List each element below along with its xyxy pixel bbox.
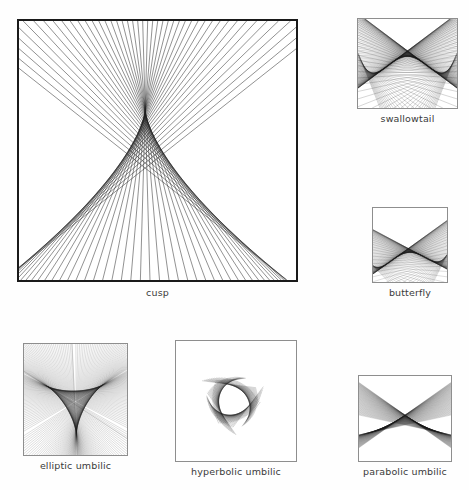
panel-cusp: cusp [17,19,298,282]
cusp-caustic-plot [19,21,296,280]
swallowtail-caustic-plot [358,19,457,108]
panel-elliptic-umbilic-frame [23,343,128,456]
panel-cusp-frame [17,19,298,282]
panel-parabolic-umbilic: parabolic umbilic [358,375,452,462]
parabolic-umbilic-caustic-plot [359,376,451,461]
hyperbolic-umbilic-caustic-plot [176,341,296,461]
panel-hyperbolic-umbilic-caption: hyperbolic umbilic [191,466,281,477]
catastrophe-figure: cusp swallowtail butterfly elliptic umbi… [0,0,469,490]
elliptic-umbilic-caustic-plot [24,344,127,455]
panel-parabolic-umbilic-caption: parabolic umbilic [363,466,447,477]
panel-elliptic-umbilic: elliptic umbilic [23,343,128,456]
panel-parabolic-umbilic-frame [358,375,452,462]
butterfly-caustic-plot [373,208,447,282]
panel-swallowtail: swallowtail [357,18,458,109]
panel-hyperbolic-umbilic: hyperbolic umbilic [175,340,297,462]
panel-butterfly-caption: butterfly [389,287,431,298]
panel-butterfly-frame [372,207,448,283]
panel-swallowtail-frame [357,18,458,109]
panel-swallowtail-caption: swallowtail [381,113,435,124]
panel-elliptic-umbilic-caption: elliptic umbilic [40,460,111,471]
panel-butterfly: butterfly [372,207,448,283]
panel-cusp-caption: cusp [146,287,169,298]
panel-hyperbolic-umbilic-frame [175,340,297,462]
